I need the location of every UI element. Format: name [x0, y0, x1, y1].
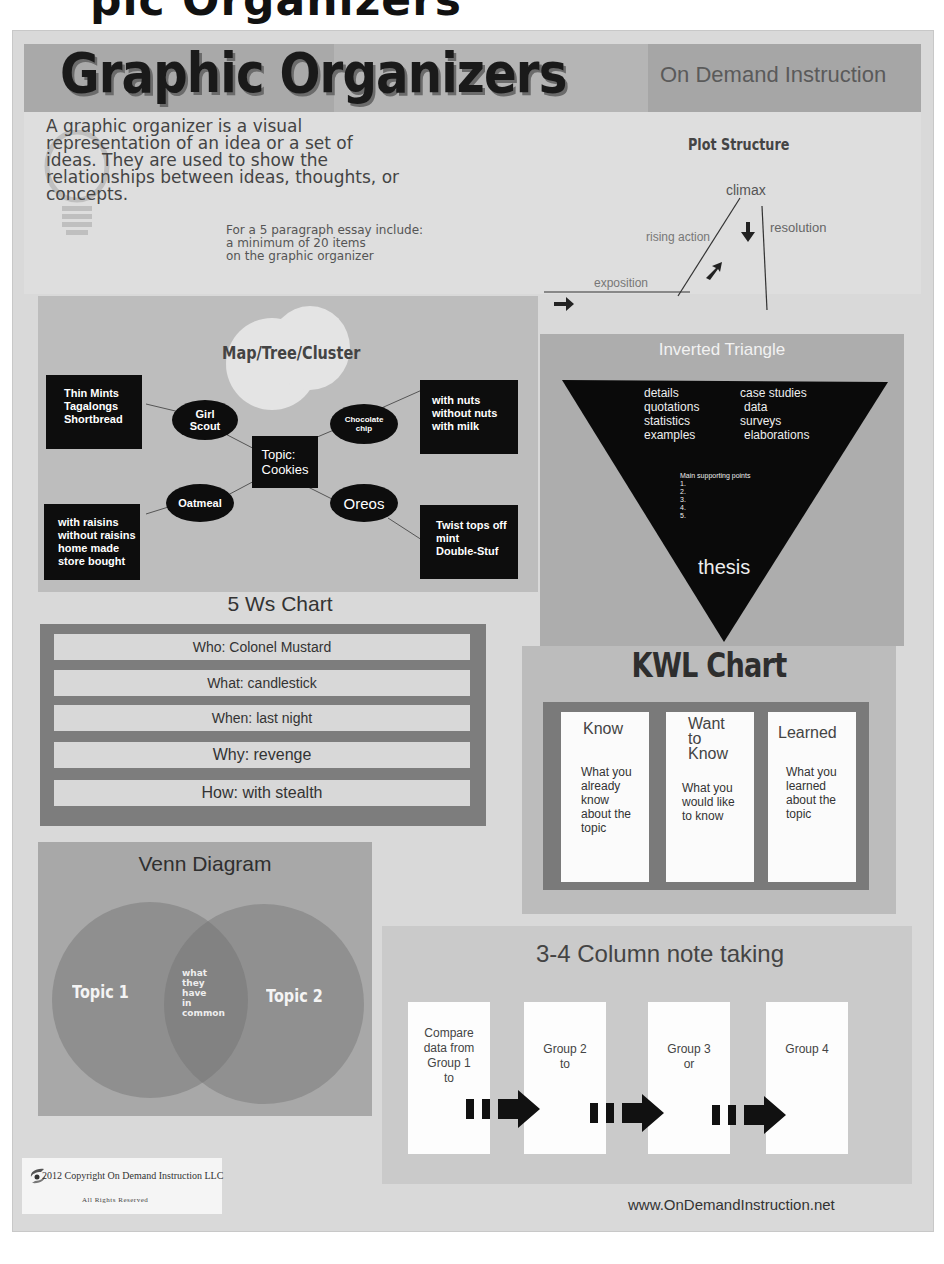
detail-text: with raisins — [58, 516, 140, 529]
branch-oatmeal: Oatmeal — [166, 484, 234, 522]
detail-text: Thin Mints — [64, 387, 142, 400]
venn-topic-1: Topic 1 — [72, 982, 129, 1002]
branch-label: Oreos — [344, 495, 385, 512]
essay-note-line: on the graphic organizer — [226, 250, 423, 263]
branch-label: Chocolate — [345, 415, 384, 424]
triangle-item: elaborations — [740, 428, 809, 442]
detail-box-oatmeal: with raisins without raisins home made s… — [44, 504, 140, 580]
kwl-body-text: to know — [682, 809, 754, 823]
kwl-body-text: about the — [786, 793, 856, 807]
detail-text: with milk — [432, 420, 518, 433]
triangle-item: case studies — [740, 386, 809, 400]
kwl-column-head: Know — [561, 712, 649, 737]
topic-label: Topic: — [262, 447, 309, 462]
kwl-column-body: What you learned about the topic — [768, 741, 856, 821]
kwl-body-text: What you — [786, 765, 856, 779]
dashed-arrow-icon — [590, 1094, 680, 1136]
venn-common-text: common — [182, 1008, 225, 1018]
column-notes-title: 3-4 Column note taking — [382, 940, 938, 968]
copyright-box — [22, 1158, 222, 1214]
column-text: to — [408, 1071, 490, 1086]
poster-subtitle: On Demand Instruction — [660, 62, 886, 88]
detail-text: Twist tops off — [436, 519, 518, 532]
five-ws-title: 5 Ws Chart — [30, 592, 530, 616]
copyright-text: 2012 Copyright On Demand Instruction LLC — [42, 1170, 223, 1181]
kwl-title: KWL Chart — [559, 645, 858, 685]
kwl-body-text: topic — [581, 821, 649, 835]
kwl-body-text: would like — [682, 795, 754, 809]
five-ws-chart: Who: Colonel Mustard What: candlestick W… — [40, 624, 486, 826]
kwl-head-text: Learned — [778, 724, 856, 741]
kwl-head-text: Know — [583, 720, 649, 737]
triangle-item: surveys — [740, 414, 809, 428]
detail-text: store bought — [58, 555, 140, 568]
detail-box-chocolate-chip: with nuts without nuts with milk — [420, 380, 518, 454]
inverted-triangle-title: Inverted Triangle — [540, 340, 904, 360]
kwl-head-text: to — [688, 731, 754, 746]
essay-note: For a 5 paragraph essay include: a minim… — [226, 224, 423, 263]
venn-title: Venn Diagram — [38, 852, 372, 876]
intro-text: A graphic organizer is a visual represen… — [46, 118, 406, 203]
rights-text: All Rights Reserved — [82, 1196, 148, 1204]
dashed-arrow-icon — [466, 1090, 556, 1132]
venn-common-text: they — [182, 978, 225, 988]
kwl-column-body: What you already know about the topic — [561, 737, 649, 835]
branch-label: Oatmeal — [178, 497, 221, 509]
detail-box-girl-scout: Thin Mints Tagalongs Shortbread — [46, 375, 142, 449]
column-text: Group 1 — [408, 1056, 490, 1071]
rising-action-label: rising action — [646, 230, 710, 244]
topic-box: Topic:Cookies — [252, 436, 318, 488]
dashed-arrow-icon — [712, 1096, 802, 1138]
website-link[interactable]: www.OnDemandInstruction.net — [628, 1196, 835, 1213]
climax-label: climax — [726, 182, 766, 198]
triangle-item: details — [644, 386, 699, 400]
detail-text: with nuts — [432, 394, 518, 407]
triangle-item: quotations — [644, 400, 699, 414]
detail-text: without raisins — [58, 529, 140, 542]
detail-text: mint — [436, 532, 518, 545]
detail-text: home made — [58, 542, 140, 555]
kwl-body-text: already — [581, 779, 649, 793]
branch-oreos: Oreos — [330, 484, 398, 522]
kwl-column-body: What you would like to know — [666, 761, 754, 823]
ws-row-what: What: candlestick — [54, 670, 470, 696]
detail-text: Double-Stuf — [436, 545, 518, 558]
kwl-head-text: Know — [688, 746, 754, 761]
ws-row-why: Why: revenge — [54, 742, 470, 768]
triangle-item: examples — [644, 428, 699, 442]
supporting-point: 4. — [680, 504, 750, 512]
supporting-point: 2. — [680, 488, 750, 496]
topic-label: Cookies — [262, 462, 309, 477]
supporting-title: Main supporting points — [680, 472, 750, 480]
kwl-column-want: Want to Know What you would like to know — [666, 712, 754, 882]
exposition-label: exposition — [594, 276, 648, 290]
branch-label: chip — [345, 424, 384, 433]
ws-row-when: When: last night — [54, 705, 470, 731]
column-text: Group 4 — [766, 1042, 848, 1057]
column-text: Compare — [408, 1026, 490, 1041]
detail-text: Shortbread — [64, 413, 142, 426]
triangle-left-list: details quotations statistics examples — [644, 386, 699, 442]
kwl-head-text: Want — [688, 716, 754, 731]
arrow-down-icon — [741, 222, 755, 242]
venn-topic-2: Topic 2 — [266, 986, 323, 1006]
kwl-body-text: What you — [581, 765, 649, 779]
triangle-item: data — [740, 400, 809, 414]
venn-common-text: have — [182, 988, 225, 998]
poster-title: Graphic Organizers — [60, 40, 566, 105]
ws-row-who: Who: Colonel Mustard — [54, 634, 470, 660]
branch-girl-scout: GirlScout — [172, 400, 238, 440]
supporting-point: 3. — [680, 496, 750, 504]
triangle-right-list: case studies data surveys elaborations — [740, 386, 809, 442]
branch-chocolate-chip: Chocolatechip — [330, 404, 398, 444]
resolution-label: resolution — [770, 220, 826, 235]
kwl-column-know: Know What you already know about the top… — [561, 712, 649, 882]
detail-box-oreos: Twist tops off mint Double-Stuf — [420, 505, 518, 579]
column-text: data from — [408, 1041, 490, 1056]
kwl-body-text: about the — [581, 807, 649, 821]
top-cut-title: pic Organizers — [90, 0, 462, 25]
kwl-column-head: Want to Know — [666, 712, 754, 761]
arrow-up-right-icon — [706, 262, 722, 280]
ws-row-how: How: with stealth — [54, 780, 470, 806]
column-text: Group 3 — [648, 1042, 730, 1057]
